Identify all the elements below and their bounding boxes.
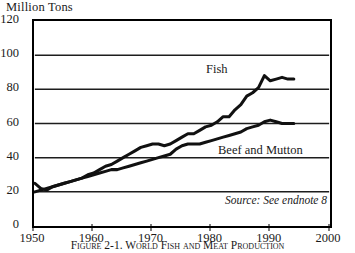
- y-tick-label: 40: [0, 148, 19, 163]
- x-tick-mark: [91, 224, 92, 231]
- figure-container: Million Tons 020406080100120 19501960197…: [0, 0, 355, 253]
- figure-caption: Figure 2-1. World Fish and Meat Producti…: [0, 239, 355, 251]
- y-tick-label: 80: [0, 80, 19, 95]
- x-tick-mark: [150, 224, 151, 231]
- y-tick-label: 120: [0, 12, 19, 27]
- y-tick-label: 100: [0, 46, 19, 61]
- y-tick-label: 20: [0, 182, 19, 197]
- x-tick-mark: [32, 224, 33, 231]
- series-label-fish: Fish: [206, 62, 228, 77]
- x-tick-mark: [328, 224, 329, 231]
- x-tick-mark: [269, 224, 270, 231]
- y-tick-label: 0: [0, 217, 19, 232]
- series-line-fish: [35, 76, 294, 192]
- source-note: Source: See endnote 8: [225, 194, 327, 206]
- y-tick-label: 60: [0, 114, 19, 129]
- series-label-beef: Beef and Mutton: [218, 143, 303, 158]
- x-tick-mark: [210, 224, 211, 231]
